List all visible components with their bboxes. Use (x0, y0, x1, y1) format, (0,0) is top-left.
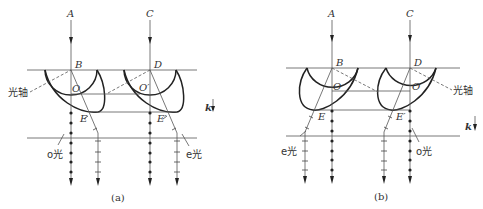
panel-a: A C B D 光轴 O O′ (8, 8, 215, 203)
o-wavefront-d (386, 68, 436, 85)
label-D: D (153, 59, 162, 70)
e-ray-label: e光 (281, 145, 297, 157)
optic-axis-line (30, 70, 71, 92)
e-ray-callout (182, 134, 189, 146)
arrow-icon (303, 176, 307, 184)
arrow-icon (69, 178, 73, 186)
e-ray-ticks (302, 116, 392, 170)
arrow-icon (330, 35, 334, 42)
o-ray-callout (412, 128, 419, 142)
label-E-prime: E′ (395, 111, 406, 122)
label-C: C (146, 8, 154, 19)
arrow-icon (96, 178, 100, 186)
label-C: C (406, 8, 414, 19)
label-B: B (335, 57, 343, 68)
label-B: B (74, 59, 82, 70)
optic-axis-label: 光轴 (453, 84, 473, 96)
arrow-icon (148, 178, 152, 186)
label-E: E (317, 111, 326, 122)
e-ray-b (305, 68, 332, 178)
label-E-prime: E′ (156, 113, 167, 124)
panel-b: A C B D 光轴 O O′ (281, 8, 477, 202)
label-D: D (413, 57, 422, 68)
label-O: O (333, 81, 341, 92)
arrow-icon (408, 35, 412, 42)
birefringence-diagram: A C B D 光轴 O O′ (0, 0, 483, 209)
label-A: A (327, 8, 335, 19)
caption-a: (a) (111, 192, 125, 203)
arrow-icon (69, 37, 73, 44)
arrow-icon (330, 176, 334, 184)
label-O-prime: O′ (412, 81, 423, 92)
e-ray-label: e光 (186, 148, 202, 160)
optic-axis-label: 光轴 (8, 86, 28, 98)
caption-b: (b) (374, 191, 388, 202)
arrow-icon (148, 37, 152, 44)
e-wavefront-b (299, 68, 358, 110)
label-A: A (66, 8, 74, 19)
k-label: k (205, 102, 212, 113)
e-ray-d (150, 70, 177, 180)
e-wavefront-d (378, 68, 436, 110)
arrow-icon (382, 176, 386, 184)
arrow-icon (473, 124, 477, 131)
o-ray-callout (58, 134, 64, 145)
o-ray-label: o光 (416, 145, 432, 157)
label-O-prime: O′ (139, 82, 150, 93)
label-E: E (79, 113, 88, 124)
k-label: k (465, 121, 472, 132)
arrow-icon (175, 178, 179, 186)
o-ray-label: o光 (47, 148, 63, 160)
arrow-icon (408, 176, 412, 184)
